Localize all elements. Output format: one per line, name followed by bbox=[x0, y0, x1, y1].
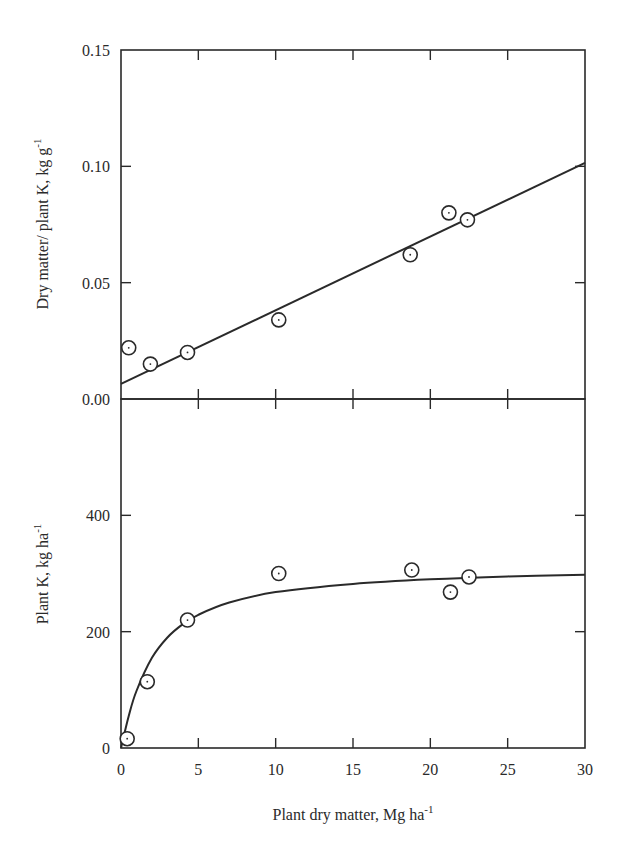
x-tick-label: 0 bbox=[117, 761, 125, 778]
y-tick-label: 0.00 bbox=[82, 391, 110, 408]
x-axis-label: Plant dry matter, Mg ha-1 bbox=[273, 803, 434, 824]
data-point bbox=[143, 357, 157, 371]
data-point bbox=[122, 341, 136, 355]
data-points bbox=[120, 206, 476, 746]
y-tick-label: 400 bbox=[86, 507, 110, 524]
tick-labels: 0.000.050.100.150200400051015202530 bbox=[82, 42, 593, 778]
data-point bbox=[443, 585, 457, 599]
data-point bbox=[272, 313, 286, 327]
bottom-plot-frame bbox=[121, 399, 585, 748]
x-tick-label: 20 bbox=[422, 761, 438, 778]
data-point bbox=[442, 206, 456, 220]
x-tick-label: 15 bbox=[345, 761, 361, 778]
y-tick-label: 0.10 bbox=[82, 158, 110, 175]
x-tick-label: 10 bbox=[268, 761, 284, 778]
y-tick-label: 0 bbox=[102, 740, 110, 757]
data-point bbox=[120, 732, 134, 746]
bottom-fit-curve bbox=[121, 575, 585, 748]
data-point bbox=[181, 345, 195, 359]
x-tick-label: 5 bbox=[194, 761, 202, 778]
fit-lines bbox=[121, 163, 585, 748]
data-point bbox=[140, 675, 154, 689]
y-tick-label: 0.15 bbox=[82, 42, 110, 59]
stacked-scatter-chart: 0.000.050.100.150200400051015202530 Dry … bbox=[0, 0, 625, 865]
data-point bbox=[460, 213, 474, 227]
data-point bbox=[403, 248, 417, 262]
data-point bbox=[462, 570, 476, 584]
data-point bbox=[405, 563, 419, 577]
bottom-y-axis-label: Plant K, kg ha-1 bbox=[31, 524, 52, 625]
figure: 0.000.050.100.150200400051015202530 Dry … bbox=[0, 0, 625, 865]
data-point bbox=[272, 567, 286, 581]
y-tick-label: 200 bbox=[86, 624, 110, 641]
y-tick-label: 0.05 bbox=[82, 275, 110, 292]
x-tick-label: 30 bbox=[577, 761, 593, 778]
top-y-axis-label: Dry matter/ plant K, kg g-1 bbox=[31, 139, 52, 310]
x-tick-label: 25 bbox=[500, 761, 516, 778]
data-point bbox=[181, 613, 195, 627]
